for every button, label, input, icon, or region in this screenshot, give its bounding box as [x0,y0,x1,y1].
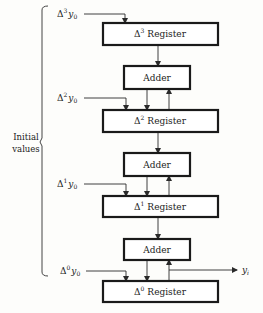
adder-1: Adder [124,66,190,89]
initial-values-label-line1: Initial [13,132,39,142]
input-label-delta0-y0: Δ0y0 [60,264,80,277]
initial-values-label-line2: values [11,144,39,154]
initial-values-bracket [40,6,48,276]
output-label-yi: yi [241,265,249,276]
svg-text:Adder: Adder [142,73,171,83]
input-wire-delta1 [84,184,126,196]
svg-text:Adder: Adder [142,245,171,255]
input-wire-delta0 [86,271,126,281]
register-delta3: Δ3Register [103,23,218,45]
register-delta1: Δ1Register [103,196,218,217]
register-adder-diagram: Initial values Δ3y0 Δ2y0 Δ1y0 Δ0y0 yi Δ3… [0,0,263,313]
input-label-delta1-y0: Δ1y0 [57,177,77,190]
input-label-delta3-y0: Δ3y0 [57,7,77,20]
adder-2: Adder [124,153,190,176]
register-delta2: Δ2Register [103,110,218,132]
input-wire-delta2 [84,98,126,110]
input-label-delta2-y0: Δ2y0 [57,91,77,104]
svg-text:Adder: Adder [142,160,171,170]
adder-3: Adder [124,239,190,260]
input-wire-delta3 [84,14,125,23]
register-delta0: Δ0Register [103,281,218,302]
